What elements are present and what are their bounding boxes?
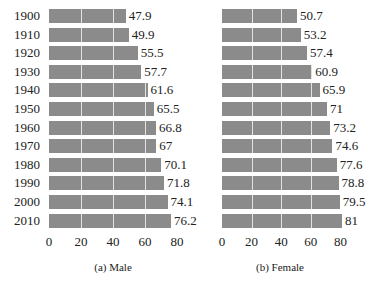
gridline — [81, 65, 82, 79]
bar-row: 78.8 — [190, 176, 378, 190]
value-label: 70.1 — [164, 158, 187, 172]
gridline — [113, 195, 114, 209]
bar — [222, 83, 320, 97]
bar-row: 194061.6 — [0, 83, 190, 97]
gridline — [281, 9, 282, 23]
bar — [49, 139, 156, 153]
value-label: 57.4 — [310, 46, 333, 60]
x-tick-label: 60 — [130, 234, 160, 250]
bar-row: 190047.9 — [0, 9, 190, 23]
bar-row: 197067 — [0, 139, 190, 153]
gridline — [81, 46, 82, 60]
gridline — [113, 139, 114, 153]
gridline — [311, 102, 312, 116]
gridline — [81, 83, 82, 97]
value-label: 71.8 — [167, 176, 190, 190]
x-tick-label: 80 — [325, 234, 355, 250]
value-label: 73.2 — [333, 121, 356, 135]
chart-caption: (b) Female — [220, 261, 340, 273]
bar-row: 201076.2 — [0, 214, 190, 228]
bar-row: 77.6 — [190, 158, 378, 172]
gridline — [252, 102, 253, 116]
bar-row: 53.2 — [190, 28, 378, 42]
bar — [222, 176, 339, 190]
value-label: 78.8 — [342, 176, 365, 190]
gridline — [113, 176, 114, 190]
bar-row: 65.9 — [190, 83, 378, 97]
gridline — [281, 139, 282, 153]
bar — [49, 9, 126, 23]
gridline — [145, 214, 146, 228]
value-label: 67 — [159, 139, 172, 153]
gridline — [113, 121, 114, 135]
gridline — [145, 102, 146, 116]
gridline — [281, 158, 282, 172]
gridline — [281, 65, 282, 79]
bar-row: 60.9 — [190, 65, 378, 79]
year-label: 1950 — [0, 102, 40, 116]
bar-row: 195065.5 — [0, 102, 190, 116]
bar — [49, 214, 171, 228]
bar — [222, 139, 332, 153]
bar-row: 50.7 — [190, 9, 378, 23]
bar — [222, 195, 340, 209]
gridline — [113, 65, 114, 79]
value-label: 47.9 — [129, 9, 152, 23]
gridline — [145, 139, 146, 153]
bar — [49, 176, 164, 190]
gridline — [145, 176, 146, 190]
value-label: 79.5 — [343, 195, 366, 209]
gridline — [81, 28, 82, 42]
bar-row: 200074.1 — [0, 195, 190, 209]
value-label: 50.7 — [300, 9, 323, 23]
gridline — [252, 158, 253, 172]
bar-row: 191049.9 — [0, 28, 190, 42]
year-label: 1900 — [0, 9, 40, 23]
bar — [49, 195, 168, 209]
value-label: 65.9 — [323, 83, 346, 97]
value-label: 53.2 — [304, 28, 327, 42]
bar-row: 196066.8 — [0, 121, 190, 135]
value-label: 71 — [330, 102, 343, 116]
year-label: 1920 — [0, 46, 40, 60]
gridline — [81, 121, 82, 135]
gridline — [281, 121, 282, 135]
gridline — [145, 83, 146, 97]
gridline — [252, 139, 253, 153]
gridline — [81, 158, 82, 172]
gridline — [281, 214, 282, 228]
gridline — [252, 214, 253, 228]
gridline — [81, 195, 82, 209]
year-label: 1980 — [0, 158, 40, 172]
bar-row: 81 — [190, 214, 378, 228]
chart-caption: (a) Male — [53, 261, 173, 273]
gridline — [311, 214, 312, 228]
gridline — [113, 83, 114, 97]
x-tick-label: 40 — [98, 234, 128, 250]
gridline — [113, 214, 114, 228]
bar — [222, 214, 342, 228]
gridline — [81, 176, 82, 190]
gridline — [145, 195, 146, 209]
year-label: 1940 — [0, 83, 40, 97]
gridline — [252, 195, 253, 209]
gridline — [311, 176, 312, 190]
value-label: 74.6 — [335, 139, 358, 153]
bar — [222, 46, 307, 60]
bar-row: 192055.5 — [0, 46, 190, 60]
gridline — [252, 9, 253, 23]
year-label: 1930 — [0, 65, 40, 79]
bar-row: 198070.1 — [0, 158, 190, 172]
bar-row: 71 — [190, 102, 378, 116]
gridline — [311, 121, 312, 135]
bar — [49, 121, 156, 135]
year-label: 1990 — [0, 176, 40, 190]
gridline — [81, 214, 82, 228]
gridline — [252, 83, 253, 97]
gridline — [281, 176, 282, 190]
value-label: 66.8 — [159, 121, 182, 135]
value-label: 81 — [345, 214, 358, 228]
male-chart: 190047.9191049.9192055.5193057.7194061.6… — [0, 0, 190, 289]
gridline — [281, 28, 282, 42]
bar — [222, 158, 337, 172]
